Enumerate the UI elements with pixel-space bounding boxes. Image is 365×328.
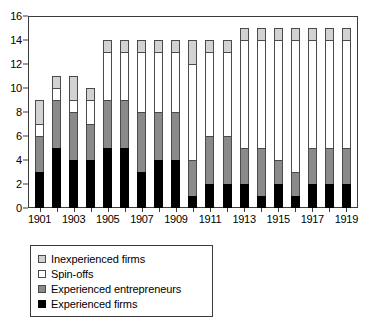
bar-segment bbox=[308, 40, 317, 148]
bar-slot bbox=[65, 16, 82, 208]
y-axis-tick-label: 10 bbox=[10, 83, 22, 94]
bar-segment bbox=[240, 148, 249, 184]
bar-segment bbox=[69, 160, 78, 208]
bar-slot bbox=[31, 16, 48, 208]
bar-segment bbox=[52, 88, 61, 100]
bar-segment bbox=[137, 52, 146, 112]
bar-segment bbox=[103, 40, 112, 52]
legend-item[interactable]: Experienced firms bbox=[38, 296, 206, 311]
y-axis: 0246810121416 bbox=[0, 16, 28, 208]
bar-segment bbox=[223, 40, 232, 52]
stacked-bar[interactable] bbox=[137, 40, 146, 208]
legend-item-label: Inexperienced firms bbox=[51, 253, 145, 265]
bar-segment bbox=[325, 40, 334, 148]
stacked-bar[interactable] bbox=[69, 76, 78, 208]
stacked-bar[interactable] bbox=[205, 40, 214, 208]
bar-segment bbox=[188, 40, 197, 64]
bar-segment bbox=[86, 100, 95, 124]
bar-segment bbox=[205, 52, 214, 136]
bar-slot bbox=[270, 16, 287, 208]
bar-segment bbox=[205, 40, 214, 52]
bar-segment bbox=[223, 136, 232, 184]
x-axis-tick-label: 1917 bbox=[301, 213, 324, 225]
bar-slot bbox=[48, 16, 65, 208]
bar-segment bbox=[291, 40, 300, 172]
bar-segment bbox=[171, 160, 180, 208]
bar-slot bbox=[253, 16, 270, 208]
x-axis-tick bbox=[167, 208, 184, 212]
x-axis-tick bbox=[150, 208, 167, 212]
bars-layer bbox=[28, 16, 358, 208]
bar-segment bbox=[342, 148, 351, 184]
stacked-bar[interactable] bbox=[188, 40, 197, 208]
stacked-bar[interactable] bbox=[103, 40, 112, 208]
bar-segment bbox=[291, 28, 300, 40]
x-axis-tick bbox=[99, 208, 116, 212]
y-axis-tick-label: 16 bbox=[10, 11, 22, 22]
bar-slot bbox=[184, 16, 201, 208]
x-axis-tick-label: 1905 bbox=[96, 213, 119, 225]
x-axis-tick-label: 1919 bbox=[335, 213, 358, 225]
bar-segment bbox=[325, 184, 334, 208]
gray-swatch bbox=[38, 285, 46, 293]
x-axis: 1901190319051907190919111913191519171919 bbox=[28, 208, 358, 238]
legend-item[interactable]: Experienced entrepreneurs bbox=[38, 281, 206, 296]
x-axis-tick bbox=[201, 208, 218, 212]
bar-segment bbox=[291, 172, 300, 196]
x-axis-tick-label: 1901 bbox=[28, 213, 51, 225]
legend-item[interactable]: Inexperienced firms bbox=[38, 251, 206, 266]
bar-segment bbox=[35, 136, 44, 172]
bar-segment bbox=[291, 196, 300, 208]
bar-segment bbox=[52, 148, 61, 208]
bar-slot bbox=[82, 16, 99, 208]
stacked-bar[interactable] bbox=[325, 28, 334, 208]
bar-slot bbox=[99, 16, 116, 208]
stacked-bar[interactable] bbox=[120, 40, 129, 208]
x-axis-tick bbox=[48, 208, 65, 212]
x-axis-tick-label: 1915 bbox=[267, 213, 290, 225]
bar-segment bbox=[257, 28, 266, 40]
bar-segment bbox=[52, 100, 61, 148]
x-axis-tick bbox=[184, 208, 201, 212]
bar-segment bbox=[35, 172, 44, 208]
x-axis-tick bbox=[116, 208, 133, 212]
stacked-bar[interactable] bbox=[308, 28, 317, 208]
bar-slot bbox=[201, 16, 218, 208]
bar-segment bbox=[103, 148, 112, 208]
bar-segment bbox=[274, 184, 283, 208]
bar-segment bbox=[257, 40, 266, 148]
bar-segment bbox=[120, 148, 129, 208]
stacked-bar[interactable] bbox=[240, 28, 249, 208]
bar-segment bbox=[223, 184, 232, 208]
legend-item[interactable]: Spin-offs bbox=[38, 266, 206, 281]
stacked-bar[interactable] bbox=[257, 28, 266, 208]
x-axis-tick bbox=[338, 208, 355, 212]
x-axis-tick bbox=[287, 208, 304, 212]
stacked-bar[interactable] bbox=[154, 40, 163, 208]
stacked-bar[interactable] bbox=[86, 88, 95, 208]
x-axis-tick bbox=[321, 208, 338, 212]
x-axis-tick bbox=[65, 208, 82, 212]
stacked-bar[interactable] bbox=[223, 40, 232, 208]
y-axis-tick-label: 12 bbox=[10, 59, 22, 70]
x-axis-tick-label: 1903 bbox=[62, 213, 85, 225]
bar-segment bbox=[308, 28, 317, 40]
stacked-bar[interactable] bbox=[342, 28, 351, 208]
bar-segment bbox=[69, 100, 78, 112]
bar-segment bbox=[188, 196, 197, 208]
bar-segment bbox=[86, 160, 95, 208]
x-axis-tick-label: 1913 bbox=[232, 213, 255, 225]
stacked-bar[interactable] bbox=[52, 76, 61, 208]
stacked-bar[interactable] bbox=[35, 100, 44, 208]
bar-slot bbox=[219, 16, 236, 208]
bar-segment bbox=[103, 52, 112, 100]
bar-slot bbox=[116, 16, 133, 208]
bar-segment bbox=[223, 52, 232, 136]
stacked-bar[interactable] bbox=[171, 40, 180, 208]
stacked-bar[interactable] bbox=[274, 28, 283, 208]
bar-segment bbox=[274, 40, 283, 160]
bar-slot bbox=[287, 16, 304, 208]
bar-segment bbox=[120, 52, 129, 100]
bar-segment bbox=[274, 28, 283, 40]
stacked-bar[interactable] bbox=[291, 28, 300, 208]
